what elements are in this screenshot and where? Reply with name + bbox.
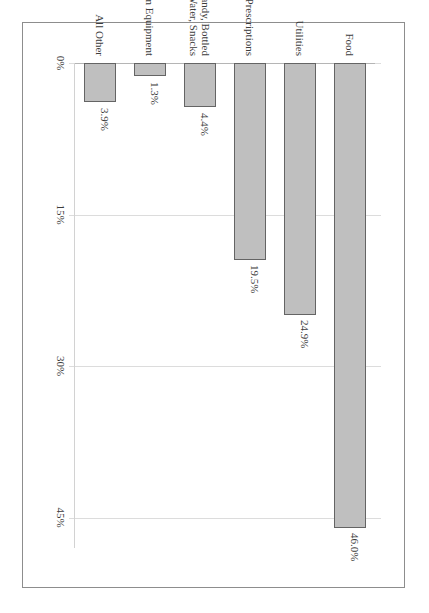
category-label-all-other: All Other — [75, 0, 125, 56]
bar-food[interactable] — [334, 63, 366, 528]
category-label-farm-equipment: Farm Equipment — [125, 0, 175, 56]
category-label-text: Farm Equipment — [143, 0, 156, 56]
bar-farm-equipment[interactable] — [134, 63, 166, 76]
bar-value-label-candy-bottled-water-snacks: 4.4% — [199, 113, 211, 136]
category-label-food: Food — [325, 0, 375, 56]
table-row: All Other 3.9% — [75, 63, 125, 548]
xtick-label-30: 30% — [55, 356, 67, 376]
category-label-prescriptions: Prescriptions — [225, 0, 275, 56]
category-label-text: Food — [343, 33, 356, 56]
xtick-label-0: 0% — [55, 56, 67, 71]
bar-prescriptions[interactable] — [234, 63, 266, 260]
category-label-utilities: Utilities — [275, 0, 325, 56]
bar-value-label-prescriptions: 19.5% — [249, 265, 261, 293]
page-frame: Food 46.0% Utilities 24.9% Prescriptions — [22, 22, 405, 588]
xtick-label-45: 45% — [55, 507, 67, 527]
category-label-text: All Other — [93, 14, 106, 56]
bar-all-other[interactable] — [84, 63, 116, 102]
category-label-text-line2: Water, Snacks — [187, 0, 200, 56]
table-row: Food 46.0% — [325, 63, 375, 548]
bar-utilities[interactable] — [284, 63, 316, 315]
bar-value-label-farm-equipment: 1.3% — [149, 82, 161, 105]
table-row: Utilities 24.9% — [275, 63, 325, 548]
category-label-candy-bottled-water-snacks: Candy, Bottled Water, Snacks — [175, 0, 225, 56]
category-label-text-line1: Candy, Bottled — [200, 0, 213, 56]
bar-candy-bottled-water-snacks[interactable] — [184, 63, 216, 107]
bar-value-label-all-other: 3.9% — [99, 108, 111, 131]
bar-chart: Food 46.0% Utilities 24.9% Prescriptions — [25, 25, 403, 585]
category-label-text: Utilities — [293, 21, 306, 56]
plot-area: Food 46.0% Utilities 24.9% Prescriptions — [75, 63, 375, 548]
table-row: Candy, Bottled Water, Snacks 4.4% — [175, 63, 225, 548]
xtick-label-15: 15% — [55, 204, 67, 224]
bar-value-label-food: 46.0% — [349, 533, 361, 561]
table-row: Farm Equipment 1.3% — [125, 63, 175, 548]
bar-value-label-utilities: 24.9% — [299, 320, 311, 348]
table-row: Prescriptions 19.5% — [225, 63, 275, 548]
category-label-text: Prescriptions — [243, 0, 256, 56]
